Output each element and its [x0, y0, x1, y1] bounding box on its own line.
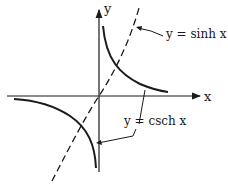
- csch-leader-line-lower: [98, 129, 136, 143]
- sinh-leader-arrowhead: [136, 26, 142, 31]
- x-axis-label: x: [204, 89, 212, 104]
- sinh-leader-line: [138, 28, 163, 36]
- csch-label: y = csch x: [123, 114, 187, 128]
- sinh-label: y = sinh x: [165, 27, 227, 41]
- csch-curve-right-branch: [103, 26, 168, 92]
- hyperbolic-functions-diagram: x y y = sinh x y = csch x: [0, 0, 228, 184]
- csch-curve-left-branch: [14, 99, 96, 168]
- y-axis-label: y: [103, 1, 112, 16]
